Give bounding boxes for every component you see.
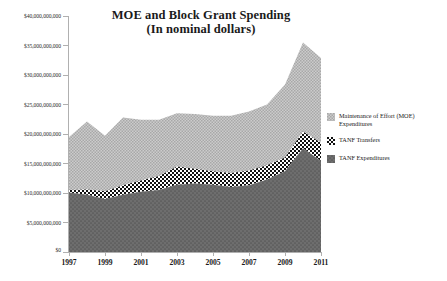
chart-figure: MOE and Block Grant Spending (In nominal… [0, 0, 447, 281]
x-tick-mark-1997 [69, 252, 70, 256]
x-tick-label-1997: 1997 [49, 258, 89, 267]
x-tick-label-2001: 2001 [121, 258, 161, 267]
legend-item-transfers: TANF Transfers [327, 136, 445, 145]
x-tick-label-2007: 2007 [229, 258, 269, 267]
legend-swatch-transfers-icon [327, 137, 335, 145]
chart-legend: Maintenance of Effort (MOE) Expenditures… [327, 112, 445, 172]
x-tick-mark-2005 [213, 252, 214, 256]
legend-label-moe: Maintenance of Effort (MOE) Expenditures [339, 112, 415, 127]
x-tick-label-2009: 2009 [265, 258, 305, 267]
x-tick-label-2003: 2003 [157, 258, 197, 267]
y-axis-line [68, 16, 69, 253]
legend-label-moe-line1: Maintenance of Effort (MOE) [339, 112, 415, 119]
x-tick-mark-2003 [177, 252, 178, 256]
x-tick-mark-2007 [249, 252, 250, 256]
legend-item-tanf: TANF Expenditures [327, 154, 445, 163]
legend-swatch-tanf-icon [327, 155, 335, 163]
legend-label-moe-line2: Expenditures [339, 120, 372, 127]
x-tick-mark-2009 [285, 252, 286, 256]
x-tick-label-2005: 2005 [193, 258, 233, 267]
x-tick-mark-1999 [105, 252, 106, 256]
x-tick-mark-2001 [141, 252, 142, 256]
legend-item-moe: Maintenance of Effort (MOE) Expenditures [327, 112, 445, 127]
x-tick-label-1999: 1999 [85, 258, 125, 267]
x-tick-label-2011: 2011 [301, 258, 341, 267]
legend-label-tanf: TANF Expenditures [339, 154, 390, 162]
legend-label-transfers: TANF Transfers [339, 136, 380, 144]
x-tick-mark-2011 [321, 252, 322, 256]
legend-swatch-moe-icon [327, 113, 335, 121]
